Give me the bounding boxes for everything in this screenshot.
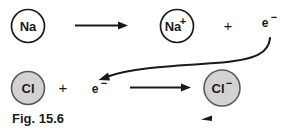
bottom-plus-sign: + bbox=[59, 79, 68, 96]
top-electron-charge: − bbox=[271, 11, 277, 23]
sodium-ion-charge: + bbox=[180, 15, 186, 27]
top-plus-sign: + bbox=[224, 17, 233, 34]
chloride-ion-label: Cl bbox=[212, 81, 225, 96]
chlorine-atom-node: Cl bbox=[12, 72, 45, 105]
top-reaction-arrow-head bbox=[118, 22, 128, 30]
ionic-bond-diagram: Na Na + + e − Cl bbox=[0, 0, 287, 133]
bottom-reaction-arrow bbox=[130, 84, 191, 92]
figure-container: Na Na + + e − Cl bbox=[0, 0, 287, 133]
electron-transfer-arrow-path bbox=[106, 38, 270, 77]
stray-arrowhead-mark bbox=[201, 116, 212, 122]
sodium-atom-node: Na bbox=[12, 10, 45, 43]
chloride-ion-node: Cl − bbox=[204, 70, 240, 106]
electron-transfer-arrow bbox=[99, 38, 271, 81]
sodium-ion-node: Na + bbox=[161, 10, 194, 43]
chlorine-atom-label: Cl bbox=[22, 81, 35, 96]
bottom-electron-label: e bbox=[92, 82, 99, 96]
chloride-ion-charge: − bbox=[226, 77, 232, 89]
bottom-electron-charge: − bbox=[101, 77, 107, 89]
bottom-reaction-arrow-head bbox=[181, 84, 191, 92]
figure-caption: Fig. 15.6 bbox=[12, 111, 64, 126]
top-electron-label: e bbox=[262, 16, 269, 30]
stray-arrowhead-glyph bbox=[201, 116, 212, 122]
top-reaction-arrow bbox=[75, 22, 128, 30]
top-electron-node: e − bbox=[262, 11, 278, 30]
sodium-atom-label: Na bbox=[20, 19, 37, 34]
